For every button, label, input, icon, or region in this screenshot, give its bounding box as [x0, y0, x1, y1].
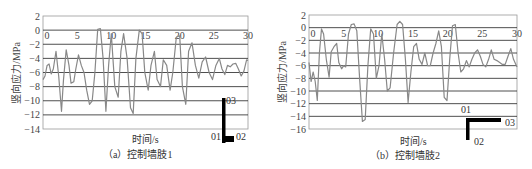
y-tick-label: 2: [35, 11, 40, 22]
y-tick-label: 0: [35, 25, 40, 36]
y-tick-label: −4: [29, 53, 40, 64]
chart-a-x-axis-label: 时间/s: [132, 131, 159, 146]
marker-label-01: 01: [211, 131, 221, 142]
y-tick-label: −6: [29, 67, 40, 78]
y-tick-label: −6: [295, 60, 306, 71]
y-tick-label: −8: [295, 73, 306, 84]
y-tick-label: −16: [290, 124, 306, 135]
marker-label-02: 02: [236, 131, 246, 142]
chart-b-y-ticks: 20−2−4−6−8−10−12−14−16: [290, 10, 306, 135]
chart-b-svg: 20−2−4−6−8−10−12−14−16 051015202530 竖向应力…: [266, 0, 532, 169]
chart-a-y-ticks: 20−2−4−6−8−10−12−14: [24, 11, 40, 135]
chart-b-x-axis-label: 时间/s: [400, 133, 427, 148]
y-tick-label: −10: [24, 95, 40, 106]
chart-panel-a: 20−2−4−6−8−10−12−14 051015202530 竖向应力/MP…: [0, 0, 266, 169]
chart-a-y-axis-label: 竖向应力/MPa: [10, 42, 22, 104]
chart-panel-b: 20−2−4−6−8−10−12−14−16 051015202530 竖向应力…: [266, 0, 532, 169]
x-tick-label: 15: [408, 28, 418, 39]
chart-b-caption: （b）控制墙肢2: [370, 147, 440, 162]
y-tick-label: −12: [290, 98, 306, 109]
x-tick-label: 0: [45, 30, 50, 41]
y-tick-label: −14: [24, 124, 40, 135]
x-tick-label: 5: [341, 28, 346, 39]
y-tick-label: −4: [295, 48, 306, 59]
marker-label-03: 03: [505, 117, 515, 128]
marker-label-03: 03: [226, 95, 236, 106]
marker-foot: [222, 136, 234, 142]
chart-b-wall-marker: 01 02 03: [461, 104, 515, 147]
y-tick-label: 0: [301, 22, 306, 33]
chart-a-wall-marker: 03 01 02: [211, 95, 246, 143]
chart-b-y-axis-label: 竖向应力/MPa: [276, 41, 288, 103]
chart-a-caption: （a）控制墙肢1: [103, 146, 172, 161]
x-tick-label: 30: [243, 30, 253, 41]
x-tick-label: 0: [311, 28, 316, 39]
marker-horizontal-bar: [466, 118, 501, 122]
x-tick-label: 5: [75, 30, 80, 41]
y-tick-label: −14: [290, 111, 306, 122]
chart-b-x-ticks: 051015202530: [311, 28, 523, 39]
y-tick-label: 2: [301, 10, 306, 21]
x-tick-label: 30: [512, 28, 522, 39]
chart-a-x-ticks: 051015202530: [45, 30, 254, 41]
marker-label-02: 02: [474, 136, 484, 147]
y-tick-label: −2: [295, 35, 306, 46]
y-tick-label: −2: [29, 39, 40, 50]
y-tick-label: −10: [290, 86, 306, 97]
x-tick-label: 25: [209, 30, 219, 41]
x-tick-label: 25: [477, 28, 487, 39]
y-tick-label: −8: [29, 81, 40, 92]
y-tick-label: −12: [24, 109, 40, 120]
marker-label-01: 01: [461, 104, 471, 115]
marker-vertical-bar: [466, 118, 470, 140]
